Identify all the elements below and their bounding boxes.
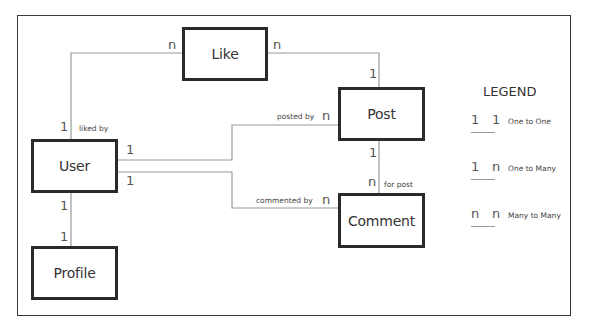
legend-right-card: 1 bbox=[492, 113, 500, 126]
card-post-comment-to: n bbox=[368, 175, 376, 188]
legend-text: Many to Many bbox=[508, 211, 561, 220]
card-user-comment-to: n bbox=[322, 193, 330, 206]
legend-left-card: 1 bbox=[471, 160, 479, 173]
entity-comment[interactable]: Comment bbox=[338, 193, 425, 248]
card-post-comment-from: 1 bbox=[369, 146, 377, 159]
entity-profile[interactable]: Profile bbox=[31, 246, 118, 300]
entity-like[interactable]: Like bbox=[182, 27, 268, 81]
card-user-like-from: 1 bbox=[60, 120, 68, 133]
rel-label-for-post: for post bbox=[384, 181, 413, 189]
rel-label-posted-by: posted by bbox=[277, 113, 314, 121]
entity-user[interactable]: User bbox=[31, 139, 118, 193]
legend-item-one-to-one: 1 1 One to One bbox=[468, 113, 578, 143]
card-user-like-to: n bbox=[168, 38, 176, 51]
entity-post-label: Post bbox=[367, 106, 396, 122]
legend-left-card: n bbox=[471, 207, 479, 220]
legend-line bbox=[471, 132, 495, 133]
entity-profile-label: Profile bbox=[53, 265, 95, 281]
legend-text: One to One bbox=[508, 117, 551, 126]
card-like-post-from: n bbox=[273, 38, 281, 51]
rel-label-liked-by: liked by bbox=[79, 125, 108, 133]
legend-right-card: n bbox=[492, 207, 500, 220]
card-user-post-to: n bbox=[322, 109, 330, 122]
entity-like-label: Like bbox=[211, 46, 238, 62]
legend-item-one-to-many: 1 n One to Many bbox=[468, 160, 578, 190]
card-user-post-from: 1 bbox=[126, 143, 134, 156]
card-user-profile-from: 1 bbox=[60, 199, 68, 212]
entity-post[interactable]: Post bbox=[338, 87, 425, 141]
legend-text: One to Many bbox=[508, 164, 556, 173]
connector-user-post bbox=[117, 125, 338, 160]
rel-label-commented-by: commented by bbox=[256, 197, 313, 205]
legend-line bbox=[471, 179, 495, 180]
card-user-profile-to: 1 bbox=[60, 230, 68, 243]
legend-left-card: 1 bbox=[471, 113, 479, 126]
legend-item-many-to-many: n n Many to Many bbox=[468, 207, 578, 237]
legend-line bbox=[471, 226, 495, 227]
connector-like-post bbox=[267, 53, 379, 87]
entity-comment-label: Comment bbox=[348, 213, 415, 229]
legend-right-card: n bbox=[492, 160, 500, 173]
card-user-comment-from: 1 bbox=[126, 174, 134, 187]
card-like-post-to: 1 bbox=[369, 67, 377, 80]
entity-user-label: User bbox=[59, 158, 90, 174]
legend-title: LEGEND bbox=[483, 84, 536, 99]
